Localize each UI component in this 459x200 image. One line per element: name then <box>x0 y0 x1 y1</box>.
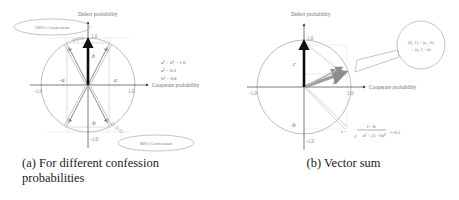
panel-a-svg: 1.0 b -b -1.0 -1.0 -a a 1.0 Defect proba… <box>0 0 229 155</box>
resultant-vector <box>304 73 343 87</box>
tick-x-neg1: -1.0 <box>249 90 258 96</box>
tick-y-1: 1.0 <box>91 33 98 39</box>
callout-tail <box>355 50 399 72</box>
panel-b-plot: 1.0 c -b -1.0 -1.0 a 1.0 Defect probabil… <box>229 0 458 155</box>
tick-x-1: 1.0 <box>347 90 354 96</box>
panel-a-plot: 1.0 b -b -1.0 -1.0 -a a 1.0 Defect proba… <box>0 0 229 155</box>
callout-shape <box>397 21 445 69</box>
panel-b: 1.0 c -b -1.0 -1.0 a 1.0 Defect probabil… <box>229 0 458 200</box>
balloon-top-label: 100% Confession <box>35 25 70 30</box>
tick-y-c: c <box>293 61 296 67</box>
tick-y-negb: -b <box>291 122 296 128</box>
callout-line-2: = (a, 1 - b) <box>411 47 431 53</box>
tick-x-nega: -a <box>60 77 65 83</box>
panel-a: 1.0 b -b -1.0 -1.0 -a a 1.0 Defect proba… <box>0 0 229 200</box>
tick-x-a: a <box>333 79 336 85</box>
equation-2: a² = 0.2 <box>161 68 177 73</box>
equation-1: a² + b² = 1.0 <box>161 60 186 65</box>
tick-y-b: b <box>92 53 95 59</box>
y-axis-label: Defect probability <box>291 11 331 17</box>
equation-3: b² = 0.8 <box>161 76 177 81</box>
formula-result: ≈ 0.5 <box>390 130 401 135</box>
caption-a: (a) For different confession probabiliti… <box>0 156 229 186</box>
marker-points-lower <box>112 123 123 133</box>
figure-container: 1.0 b -b -1.0 -1.0 -a a 1.0 Defect proba… <box>0 0 459 200</box>
tick-y-neg1: -1.0 <box>90 136 99 142</box>
y-axis-label: Defect probability <box>78 11 118 17</box>
balloon-bottom-label: 80% Confession <box>140 141 173 146</box>
sqrt-sign: √ <box>354 134 357 139</box>
caption-b: (b) Vector sum <box>229 156 458 171</box>
formula-lhs: c = <box>341 129 347 134</box>
tick-x-1: 1.0 <box>128 88 135 94</box>
formula-denominator: a² + (1 - b)² <box>362 133 386 138</box>
x-axis-label: Cooperate probability <box>152 82 199 88</box>
callout-line-1: (0, 1) + (a, -b) <box>408 40 435 46</box>
tick-y-neg1: -1.0 <box>306 138 315 144</box>
x-axis-label: Cooperate probability <box>369 84 416 90</box>
formula-numerator: 1 - b <box>366 124 376 129</box>
panel-b-svg: 1.0 c -b -1.0 -1.0 a 1.0 Defect probabil… <box>229 0 458 155</box>
tick-y-1: 1.0 <box>307 35 314 41</box>
tick-x-a: a <box>114 77 117 83</box>
tick-x-neg1: -1.0 <box>34 88 43 94</box>
tick-y-negb: -b <box>91 120 96 126</box>
